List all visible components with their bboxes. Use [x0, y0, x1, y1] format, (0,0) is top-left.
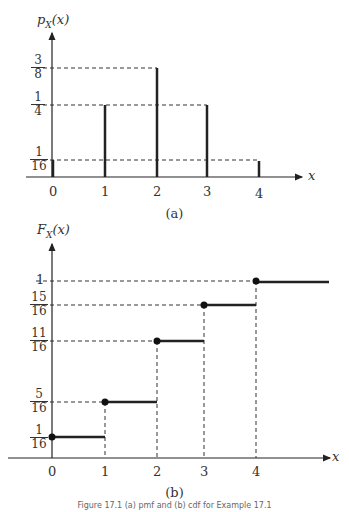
cdf-ytick-5-16: 516	[30, 388, 48, 415]
cdf-ytick-11-16: 1116	[30, 327, 48, 354]
pmf-reference-lines	[36, 68, 259, 160]
pmf-caption: (a)	[0, 206, 349, 221]
plot-canvas	[0, 0, 349, 512]
cdf-dots	[49, 278, 260, 441]
cdf-xtick-0: 0	[48, 464, 56, 479]
cdf-xtick-1: 1	[101, 464, 109, 479]
cdf-xtick-3: 3	[200, 464, 208, 479]
cdf-ytick-15-16: 1516	[30, 291, 48, 318]
pmf-xtick-2: 2	[153, 184, 161, 199]
cdf-xtick-4: 4	[252, 464, 260, 479]
pmf-xtick-1: 1	[101, 184, 109, 199]
pmf-ytick-3-8: 38	[31, 54, 45, 81]
pmf-stems	[53, 68, 259, 177]
cdf-ytick-1-16: 116	[30, 424, 48, 451]
cdf-x-axis-label: x	[332, 449, 339, 464]
pmf-x-axis-label: x	[308, 168, 315, 183]
figure-caption: Figure 17.1 (a) pmf and (b) cdf for Exam…	[0, 501, 349, 510]
cdf-xtick-2: 2	[153, 464, 161, 479]
pmf-y-axis-label: pX(x)	[37, 12, 69, 30]
pmf-xtick-3: 3	[203, 184, 211, 199]
cdf-reference-lines	[36, 281, 256, 458]
pmf-ytick-1-4: 14	[31, 91, 45, 118]
pmf-ytick-1-16: 116	[30, 146, 48, 173]
cdf-axes	[8, 244, 330, 458]
cdf-ytick-1: 1	[36, 272, 44, 287]
pmf-xtick-0: 0	[49, 184, 57, 199]
cdf-y-axis-label: FX(x)	[37, 222, 70, 240]
pmf-xtick-4: 4	[255, 186, 263, 201]
cdf-caption: (b)	[0, 485, 349, 500]
